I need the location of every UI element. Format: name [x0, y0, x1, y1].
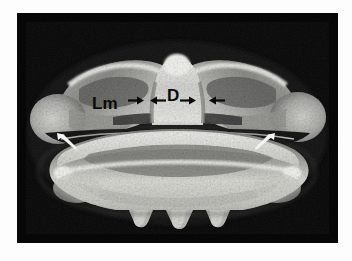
radiograph-panel: Lm D — [17, 13, 338, 243]
radiograph-image — [17, 13, 338, 243]
annotation-label-d: D — [167, 87, 179, 104]
annotation-label-lm: Lm — [92, 95, 118, 112]
figure-root: Lm D — [0, 0, 352, 261]
